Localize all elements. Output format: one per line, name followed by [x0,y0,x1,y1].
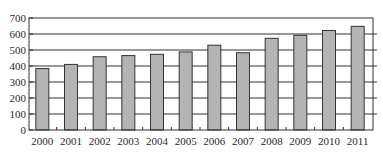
bar-2002 [93,57,106,130]
bar-2001 [65,64,78,130]
bar-2007 [237,53,250,130]
y-tick-label: 400 [10,60,27,72]
x-tick-label: 2003 [117,135,140,147]
x-tick-label: 2001 [60,135,82,147]
x-tick-label: 2011 [347,135,369,147]
y-tick-label: 500 [10,44,27,56]
y-tick-label: 600 [10,28,27,40]
bar-2009 [294,35,307,130]
bar-2010 [323,30,336,130]
x-tick-label: 2009 [289,135,312,147]
x-tick-label: 2007 [232,135,255,147]
bar-2003 [122,56,135,130]
bar-2000 [36,69,49,130]
y-tick-label: 200 [10,92,27,104]
bar-2005 [179,52,192,130]
plot-frame [29,18,373,130]
bar-2006 [208,45,221,130]
x-tick-label: 2002 [89,135,111,147]
bar-2011 [351,26,364,130]
x-tick-label: 2008 [261,135,284,147]
x-tick-label: 2004 [146,135,169,147]
y-tick-label: 700 [10,12,27,24]
x-tick-label: 2000 [31,135,54,147]
y-tick-label: 100 [10,108,27,120]
x-tick-label: 2010 [318,135,341,147]
bar-2004 [151,54,164,130]
x-tick-label: 2005 [175,135,198,147]
y-tick-label: 0 [21,124,27,136]
x-tick-label: 2006 [203,135,226,147]
bar-2008 [265,38,278,130]
y-tick-label: 300 [10,76,27,88]
bar-chart: 0100200300400500600700 20002001200220032… [0,0,383,152]
